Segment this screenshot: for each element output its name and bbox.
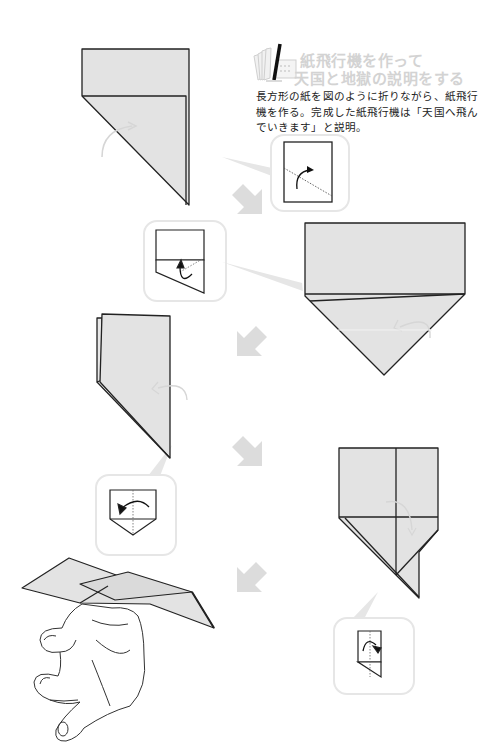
hand-illustration (34, 604, 145, 741)
flow-arrow-down-right-1 (232, 184, 262, 214)
fold-diagram-2 (305, 223, 465, 375)
callout-4-diagram (358, 631, 381, 677)
fold-diagram-3 (97, 314, 170, 458)
fold-diagram-4 (339, 448, 438, 598)
callout-2-diagram (156, 230, 204, 293)
flow-arrow-down-left-2 (237, 562, 267, 592)
callout-3-diagram (110, 490, 156, 535)
flow-arrow-down-left-1 (237, 326, 267, 356)
flow-arrow-down-right-2 (232, 436, 262, 466)
callout-1-diagram (284, 142, 332, 202)
origami-diagram-canvas (0, 0, 484, 749)
